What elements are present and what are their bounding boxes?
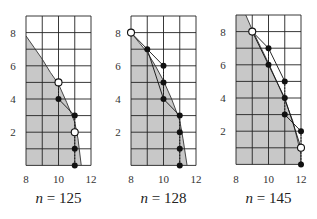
filled-point	[298, 161, 304, 167]
x-tick-label: 10	[53, 173, 65, 185]
filled-point	[177, 162, 183, 168]
caption-variable: n	[36, 190, 44, 206]
caption-value: = 128	[148, 190, 186, 206]
y-tick-label: 2	[10, 126, 16, 138]
filled-point	[161, 79, 167, 85]
y-tick-label: 8	[10, 27, 16, 39]
x-tick-label: 8	[233, 173, 239, 185]
y-tick-label: 6	[10, 60, 16, 72]
filled-point	[72, 146, 78, 152]
y-tick-label: 2	[115, 126, 121, 138]
filled-point	[72, 113, 78, 119]
filled-point	[56, 96, 62, 102]
open-point	[71, 129, 78, 136]
caption-value: = 145	[253, 190, 291, 206]
filled-point	[266, 62, 272, 68]
caption-variable: n	[141, 190, 149, 206]
y-tick-label: 4	[220, 92, 226, 104]
y-tick-label: 6	[220, 59, 226, 71]
y-tick-label: 8	[220, 26, 226, 38]
open-point	[55, 79, 62, 86]
filled-point	[282, 112, 288, 118]
open-point	[128, 29, 135, 36]
x-tick-label: 10	[158, 173, 170, 185]
x-tick-label: 10	[263, 173, 275, 185]
chart-panel-2: 246881012n = 128	[115, 16, 201, 206]
shaded-region	[131, 16, 187, 165]
filled-point	[177, 129, 183, 135]
x-tick-label: 8	[128, 173, 134, 185]
filled-point	[282, 95, 288, 101]
y-tick-label: 4	[115, 93, 121, 105]
x-tick-label: 12	[86, 173, 97, 185]
filled-point	[161, 96, 167, 102]
shaded-region	[26, 16, 81, 165]
chart-panel-1: 246881012n = 125	[10, 16, 96, 206]
open-point	[249, 28, 256, 35]
filled-point	[72, 162, 78, 168]
panel-caption: n = 125	[36, 190, 82, 206]
chart-panel-3: 246881012n = 145	[220, 15, 306, 206]
y-tick-label: 8	[115, 27, 121, 39]
filled-point	[161, 63, 167, 69]
filled-point	[298, 128, 304, 134]
figure: 246881012n = 125246881012n = 12824688101…	[0, 0, 317, 219]
y-tick-label: 2	[220, 125, 226, 137]
y-tick-label: 6	[115, 60, 121, 72]
caption-variable: n	[246, 190, 254, 206]
y-tick-label: 4	[10, 93, 16, 105]
filled-point	[266, 45, 272, 51]
filled-point	[144, 46, 150, 52]
caption-value: = 125	[43, 190, 81, 206]
filled-point	[177, 146, 183, 152]
panel-caption: n = 128	[141, 190, 187, 206]
open-point	[298, 144, 305, 151]
filled-point	[282, 78, 288, 84]
x-tick-label: 12	[296, 173, 307, 185]
x-tick-label: 8	[23, 173, 29, 185]
filled-point	[177, 113, 183, 119]
panel-caption: n = 145	[246, 190, 292, 206]
x-tick-label: 12	[191, 173, 202, 185]
